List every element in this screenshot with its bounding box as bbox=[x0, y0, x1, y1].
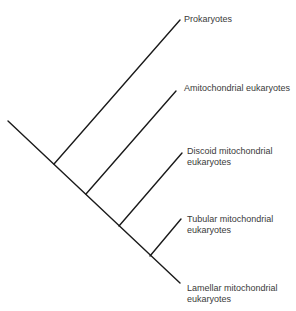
label-tubular: Tubular mitochondrial eukaryotes bbox=[187, 214, 273, 236]
label-discoid: Discoid mitochondrial eukaryotes bbox=[187, 146, 273, 168]
main-axis bbox=[8, 121, 180, 283]
label-lamellar: Lamellar mitochondrial eukaryotes bbox=[187, 283, 278, 305]
branch-tubular bbox=[150, 219, 181, 256]
label-amitochondrial: Amitochondrial eukaryotes bbox=[184, 83, 290, 94]
branch-amitochondrial bbox=[86, 91, 176, 194]
label-prokaryotes: Prokaryotes bbox=[184, 14, 232, 25]
branch-prokaryotes bbox=[54, 20, 180, 164]
branch-discoid bbox=[119, 153, 182, 226]
